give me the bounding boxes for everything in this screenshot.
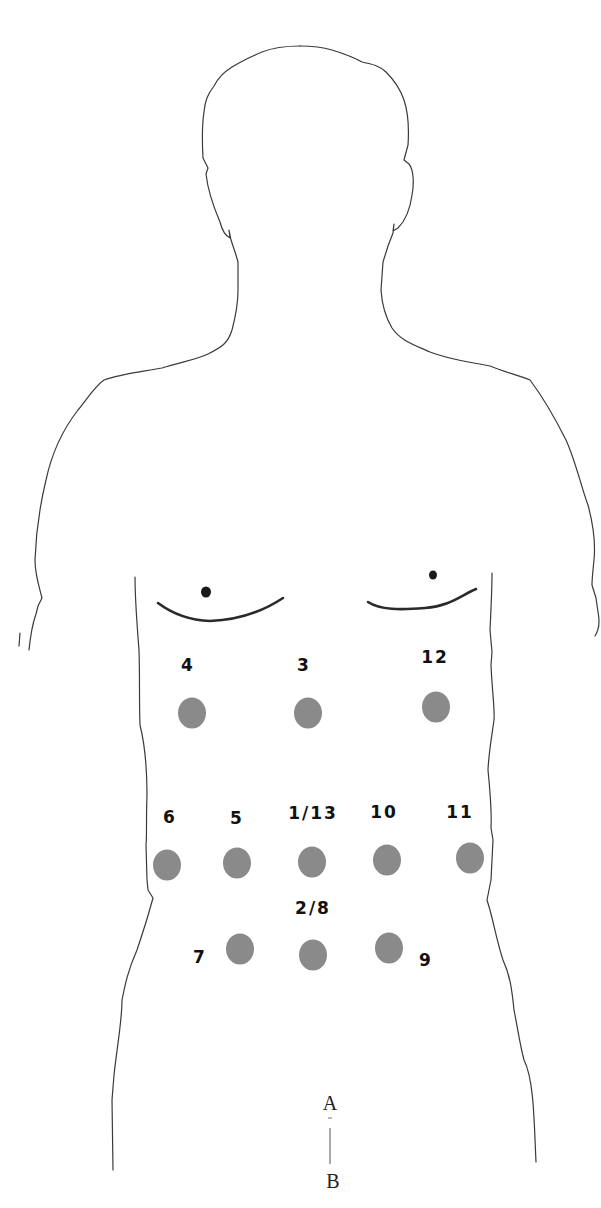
torso-side-right xyxy=(487,573,536,1162)
measurement-sites: 4312651/13101172/89 xyxy=(153,647,484,971)
measurement-site: 6 xyxy=(153,807,181,881)
site-dot xyxy=(223,848,251,879)
site-label: 6 xyxy=(163,807,177,827)
site-label: 11 xyxy=(446,802,474,822)
chest-curve-left xyxy=(158,598,283,621)
site-dot xyxy=(422,692,450,723)
site-dot xyxy=(299,940,327,971)
left-arm-fragment xyxy=(19,633,20,646)
nipple-right xyxy=(429,571,437,580)
site-label: 3 xyxy=(297,655,311,675)
measurement-site: 1/13 xyxy=(288,803,338,878)
body-outline-left xyxy=(29,46,300,650)
body-diagram: 4312651/13101172/89 A B xyxy=(0,0,601,1208)
site-label: 12 xyxy=(421,647,449,667)
nipple-left xyxy=(201,587,211,598)
chest-curve-right xyxy=(368,589,476,609)
site-dot xyxy=(375,933,403,964)
measurement-site: 4 xyxy=(178,655,206,729)
site-dot xyxy=(298,847,326,878)
measurement-site: 9 xyxy=(375,933,433,971)
site-dot xyxy=(153,850,181,881)
body-outline-right xyxy=(300,46,599,636)
measurement-site: 10 xyxy=(370,802,401,876)
torso-side-left xyxy=(112,577,153,1170)
measurement-site: 5 xyxy=(223,808,251,879)
site-label: 4 xyxy=(181,655,195,675)
site-dot xyxy=(373,845,401,876)
site-dot xyxy=(226,934,254,965)
site-label: 1/13 xyxy=(288,803,338,823)
measurement-site: 12 xyxy=(421,647,450,723)
site-dot xyxy=(456,843,484,874)
measurement-site: 11 xyxy=(446,802,484,874)
site-label: 10 xyxy=(370,802,398,822)
site-label: 7 xyxy=(193,947,207,967)
site-label: 9 xyxy=(419,950,433,970)
measurement-site: 2/8 xyxy=(295,898,331,971)
site-label: 5 xyxy=(230,808,244,828)
measurement-site: 7 xyxy=(193,934,254,968)
site-label: 2/8 xyxy=(295,898,331,918)
reference-label-a: A xyxy=(323,1092,338,1114)
measurement-site: 3 xyxy=(294,655,322,729)
site-dot xyxy=(294,698,322,729)
reference-label-b: B xyxy=(326,1170,339,1192)
site-dot xyxy=(178,698,206,729)
